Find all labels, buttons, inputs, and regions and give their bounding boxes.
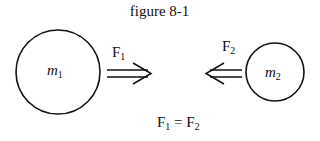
mass1-label: m1 — [47, 62, 63, 80]
mass2-label: m2 — [265, 64, 281, 82]
force1-label: F1 — [112, 44, 125, 62]
force2-arrow-icon — [206, 63, 242, 84]
equation: F1 = F2 — [157, 114, 200, 132]
force1-arrow-icon — [107, 63, 151, 84]
force2-label: F2 — [222, 38, 235, 56]
